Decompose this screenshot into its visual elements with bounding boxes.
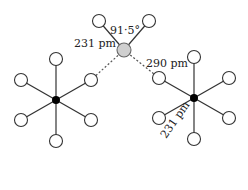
long-contact-label: 290 pm (146, 57, 189, 70)
ligand-atom (153, 112, 166, 125)
bridge-ligand-atom (93, 15, 106, 28)
right-metal-atom (190, 94, 198, 102)
diagram-canvas: 91·5° 231 pm 290 pm 231 pm (0, 0, 248, 190)
ligand-atom (188, 51, 201, 64)
angle-label: 91·5° (110, 24, 140, 37)
ligand-atom (50, 53, 63, 66)
ligand-atom (15, 114, 28, 127)
ligand-atom (50, 135, 63, 148)
bridge-atom (117, 43, 131, 57)
ligand-atom (85, 114, 98, 127)
ligand-atom (15, 74, 28, 87)
ligand-atom (188, 133, 201, 146)
ligand-atom (85, 74, 98, 87)
ligand-atom (223, 112, 236, 125)
ligand-atom (223, 72, 236, 85)
bridge-ligand-atom (143, 15, 156, 28)
ligand-atom (153, 72, 166, 85)
bridge-bond-label: 231 pm (74, 37, 117, 50)
left-metal-atom (52, 96, 60, 104)
